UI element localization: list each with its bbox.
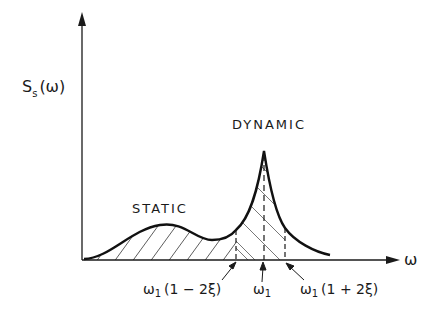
spectrum-curve (84, 151, 330, 259)
static-hatch (90, 215, 274, 270)
spectral-density-diagram: Ss(ω) ω STATIC DYNAMIC ω1(1 − 2ξ) ω1 ω1(… (0, 0, 438, 315)
static-label: STATIC (132, 201, 188, 216)
dynamic-label: DYNAMIC (232, 117, 306, 132)
y-axis-arrow-icon (78, 12, 86, 26)
leader-arrows (222, 262, 304, 282)
marker-center-label: ω1 (253, 281, 271, 299)
x-axis-label: ω (404, 250, 417, 269)
x-axis-arrow-icon (386, 256, 400, 264)
y-axis-label: Ss(ω) (22, 77, 65, 99)
marker-upper-label: ω1(1 + 2ξ) (300, 281, 378, 299)
marker-lower-label: ω1(1 − 2ξ) (143, 281, 221, 299)
dynamic-hatch (210, 155, 320, 275)
